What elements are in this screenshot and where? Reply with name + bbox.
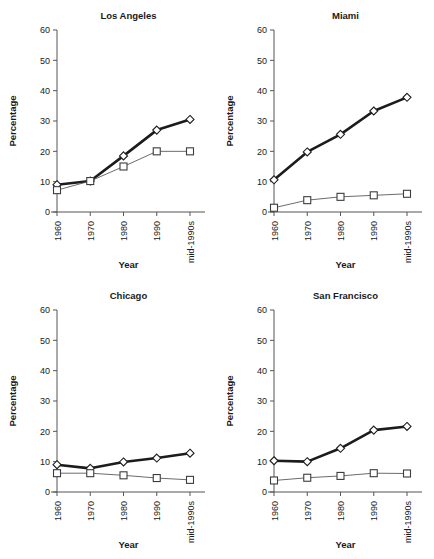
y-tick-label: 50 [40,336,50,346]
panel-los-angeles: Los Angeles0102030405060Percentage196019… [0,0,217,279]
data-point-diamond [403,93,411,101]
y-tick-label: 0 [45,487,50,497]
x-tick-label: 1970 [86,221,96,241]
data-point-square [304,474,311,481]
data-point-square [187,476,194,483]
y-axis-title: Percentage [224,375,235,426]
x-tick-label: 1970 [303,501,313,521]
x-tick-label: 1990 [152,221,162,241]
x-tick-label: 1980 [336,501,346,521]
data-point-square [337,193,344,200]
x-tick-label: 1970 [303,221,313,241]
data-point-diamond [186,115,194,123]
data-point-square [153,475,160,482]
y-tick-label: 60 [257,25,267,35]
data-point-square [404,190,411,197]
x-tick-label: 1980 [336,221,346,241]
x-axis-title: Year [118,259,138,270]
y-tick-label: 60 [257,305,267,315]
panel-title: Chicago [110,290,148,301]
data-point-square [337,472,344,479]
x-tick-label: 1960 [53,221,63,241]
data-point-square [370,470,377,477]
y-tick-label: 30 [257,396,267,406]
x-tick-label: 1990 [152,501,162,521]
x-tick-label: mid-1990s [403,221,413,264]
data-point-diamond [120,458,128,466]
y-tick-label: 60 [40,25,50,35]
x-tick-label: 1960 [270,221,280,241]
panel-plot: Los Angeles0102030405060Percentage196019… [0,0,217,279]
x-tick-label: 1960 [53,501,63,521]
x-axis-title: Year [118,539,138,550]
y-tick-label: 30 [257,116,267,126]
y-axis-title: Percentage [7,95,18,146]
data-point-square [87,178,94,185]
y-tick-label: 20 [40,147,50,157]
data-point-diamond [303,458,311,466]
y-tick-label: 20 [257,147,267,157]
data-point-square [87,470,94,477]
data-point-diamond [403,422,411,430]
y-tick-label: 0 [262,207,267,217]
x-tick-label: 1980 [119,501,129,521]
data-point-square [153,148,160,155]
data-point-square [120,472,127,479]
y-tick-label: 50 [40,56,50,66]
y-tick-label: 10 [40,457,50,467]
panel-miami: Miami0102030405060Percentage196019701980… [217,0,434,279]
x-tick-label: 1960 [270,501,280,521]
data-point-diamond [186,449,194,457]
y-axis-title: Percentage [224,95,235,146]
data-point-square [271,477,278,484]
data-point-square [370,192,377,199]
x-tick-label: 1980 [119,221,129,241]
data-point-diamond [153,454,161,462]
data-point-diamond [270,457,278,465]
x-axis-title: Year [335,539,355,550]
panel-plot: Miami0102030405060Percentage196019701980… [217,0,434,279]
y-axis-title: Percentage [7,375,18,426]
x-tick-label: mid-1990s [186,501,196,544]
y-tick-label: 40 [40,86,50,96]
y-tick-label: 40 [257,86,267,96]
panel-title: Los Angeles [100,10,156,21]
data-point-square [271,204,278,211]
data-point-square [54,470,61,477]
x-tick-label: 1990 [369,501,379,521]
data-point-square [304,197,311,204]
panel-chicago: Chicago0102030405060Percentage1960197019… [0,280,217,559]
x-tick-label: 1970 [86,501,96,521]
y-tick-label: 10 [257,457,267,467]
panel-title: Miami [332,10,359,21]
y-tick-label: 40 [257,366,267,376]
y-tick-label: 40 [40,366,50,376]
y-tick-label: 60 [40,305,50,315]
panel-san-francisco: San Francisco0102030405060Percentage1960… [217,280,434,559]
y-tick-label: 10 [257,177,267,187]
y-tick-label: 30 [40,396,50,406]
y-tick-label: 20 [257,427,267,437]
y-tick-label: 50 [257,56,267,66]
y-tick-label: 50 [257,336,267,346]
y-tick-label: 0 [262,487,267,497]
y-tick-label: 0 [45,207,50,217]
x-tick-label: 1990 [369,221,379,241]
x-tick-label: mid-1990s [403,501,413,544]
figure-root: Los Angeles0102030405060Percentage196019… [0,0,434,559]
y-tick-label: 20 [40,427,50,437]
data-point-square [404,470,411,477]
panel-plot: San Francisco0102030405060Percentage1960… [217,280,434,559]
data-point-square [54,187,61,194]
panel-title: San Francisco [313,290,378,301]
x-axis-title: Year [335,259,355,270]
data-point-square [187,148,194,155]
data-point-square [120,163,127,170]
y-tick-label: 30 [40,116,50,126]
panel-plot: Chicago0102030405060Percentage1960197019… [0,280,217,559]
x-tick-label: mid-1990s [186,221,196,264]
y-tick-label: 10 [40,177,50,187]
